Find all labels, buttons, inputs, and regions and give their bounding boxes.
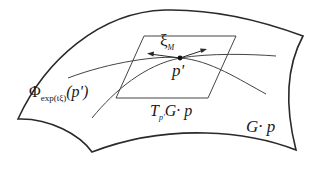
phi-argument: (p') [66, 83, 88, 100]
tangent-T: T [150, 102, 159, 119]
tangent-rest: G· p [165, 102, 193, 119]
tangent-subscript: p' [159, 113, 165, 122]
xi-subscript: M [168, 43, 175, 52]
xi-m-label: ξM [160, 32, 174, 49]
point-p-prime-label: p' [172, 61, 184, 80]
phi-symbol: Φ [29, 83, 41, 100]
xi-symbol: ξ [160, 31, 168, 50]
phi-subscript: exp(tξ) [41, 93, 67, 103]
orbit-label: G· p [246, 118, 275, 135]
orbit-label-text: G· p [246, 117, 275, 136]
arrowhead-right-icon [200, 49, 207, 54]
arrowhead-left-icon [147, 52, 154, 57]
tangent-space-label: Tp'G· p [150, 103, 192, 119]
point-label: p' [172, 62, 184, 79]
point-p-prime [178, 56, 183, 61]
phi-label: Φexp(tξ)(p') [29, 84, 88, 100]
